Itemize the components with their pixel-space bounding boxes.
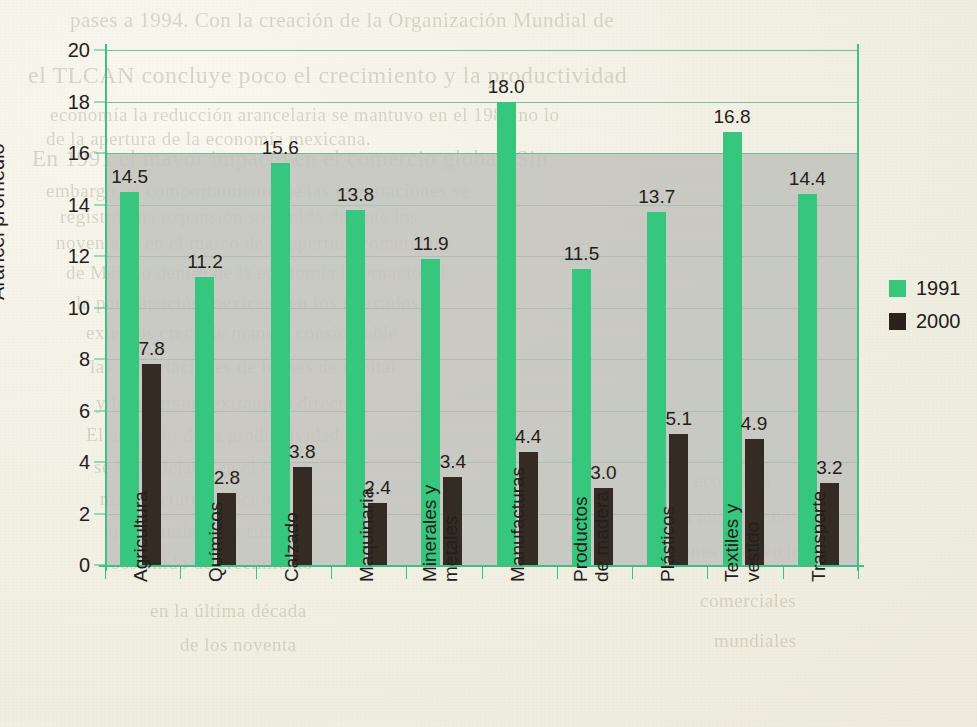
legend-label: 1991 [916, 277, 961, 300]
gridline [105, 205, 858, 206]
y-tick-mark [94, 462, 105, 463]
legend-item: 1991 [889, 272, 961, 305]
bar-value-label-2000: 2.8 [214, 467, 240, 489]
category-label-line: Químicos [205, 502, 226, 582]
y-tick-mark [94, 410, 105, 411]
bar-value-label-2000: 3.2 [816, 457, 842, 479]
y-tick-mark [94, 153, 105, 154]
y-tick-mark [94, 307, 105, 308]
y-tick-mark [94, 256, 105, 257]
y-tick-label: 16 [50, 142, 90, 165]
y-tick-label: 12 [50, 245, 90, 268]
category-label-line: Textiles y [721, 504, 742, 582]
x-tick-mark [105, 566, 106, 579]
y-tick-label: 18 [50, 90, 90, 113]
legend-label: 2000 [916, 310, 961, 333]
category-label-line: Productos [570, 491, 591, 582]
x-tick-mark [557, 566, 558, 579]
category-label-line: Agricultura [130, 491, 151, 582]
gridline [105, 153, 858, 154]
bar-value-label-1991: 13.8 [337, 184, 374, 206]
bar-1991 [271, 163, 290, 565]
bar-value-label-2000: 7.8 [138, 338, 164, 360]
bar-value-label-2000: 3.0 [590, 462, 616, 484]
category-label-line: Maquinaria [356, 488, 377, 582]
category-label: Maquinaria [356, 488, 377, 582]
y-axis-title: Arancel promedio [0, 143, 9, 300]
y-tick-mark [94, 565, 105, 566]
legend-item: 2000 [889, 305, 961, 338]
x-tick-mark [331, 566, 332, 579]
x-tick-mark [482, 566, 483, 579]
bar-value-label-1991: 14.4 [789, 168, 826, 190]
category-label: Minerales ymetales [419, 485, 462, 582]
category-label: Plásticos [657, 506, 678, 582]
category-label: Químicos [205, 502, 226, 582]
gridline [105, 50, 858, 51]
y-tick-label: 4 [50, 451, 90, 474]
category-label-line: vestido [742, 504, 763, 582]
bar-value-label-2000: 3.8 [289, 441, 315, 463]
category-label-line: Manufacturas [507, 467, 528, 582]
category-label-line: metales [441, 485, 462, 582]
x-tick-mark [632, 566, 633, 579]
y-tick-label: 20 [50, 39, 90, 62]
y-tick-label: 10 [50, 296, 90, 319]
bar-value-label-2000: 3.4 [440, 451, 466, 473]
category-label: Calzado [281, 512, 302, 582]
x-tick-mark [858, 566, 859, 579]
category-label: Transporte [808, 491, 829, 582]
bar-value-label-1991: 13.7 [638, 186, 675, 208]
y-axis-line [105, 44, 107, 571]
y-tick-label: 6 [50, 399, 90, 422]
x-tick-mark [406, 566, 407, 579]
bar-value-label-1991: 15.6 [262, 137, 299, 159]
bar-value-label-1991: 14.5 [111, 166, 148, 188]
plot-right-border [857, 44, 859, 571]
bar-value-label-1991: 16.8 [714, 106, 751, 128]
legend-swatch [889, 313, 906, 330]
gridline [105, 308, 858, 309]
y-tick-label: 2 [50, 502, 90, 525]
category-label-line: Calzado [281, 512, 302, 582]
bar-value-label-1991: 18.0 [488, 76, 525, 98]
category-label-line: Plásticos [657, 506, 678, 582]
x-tick-mark [783, 566, 784, 579]
gridline [105, 359, 858, 360]
x-tick-mark [707, 566, 708, 579]
y-tick-label: 0 [50, 554, 90, 577]
category-label: Textiles yvestido [721, 504, 764, 582]
bar-value-label-2000: 4.9 [741, 413, 767, 435]
bar-1991 [723, 132, 742, 565]
category-label: Manufacturas [507, 467, 528, 582]
y-tick-mark [94, 513, 105, 514]
y-tick-mark [94, 359, 105, 360]
bar-value-label-1991: 11.5 [564, 243, 600, 265]
category-label-line: Minerales y [419, 485, 440, 582]
y-tick-mark [94, 204, 105, 205]
category-label-line: Transporte [808, 491, 829, 582]
x-tick-mark [256, 566, 257, 579]
category-label-line: de madera [591, 491, 612, 582]
y-tick-mark [94, 50, 105, 51]
y-tick-mark [94, 101, 105, 102]
bar-value-label-1991: 11.2 [187, 251, 223, 273]
scanned-page: pases a 1994. Con la creación de la Orga… [0, 0, 977, 727]
y-tick-label: 8 [50, 348, 90, 371]
category-label: Productosde madera [570, 491, 613, 582]
bar-value-label-2000: 5.1 [666, 408, 692, 430]
gridline [105, 102, 858, 103]
bar-value-label-1991: 11.9 [413, 233, 449, 255]
x-tick-mark [180, 566, 181, 579]
legend-swatch [889, 280, 906, 297]
bar-chart: 20181614121086420 14.57.811.22.815.63.81… [0, 0, 977, 727]
chart-legend: 19912000 [889, 272, 961, 338]
bar-value-label-2000: 4.4 [515, 426, 541, 448]
gridline [105, 411, 858, 412]
category-label: Agricultura [130, 491, 151, 582]
y-tick-label: 14 [50, 193, 90, 216]
